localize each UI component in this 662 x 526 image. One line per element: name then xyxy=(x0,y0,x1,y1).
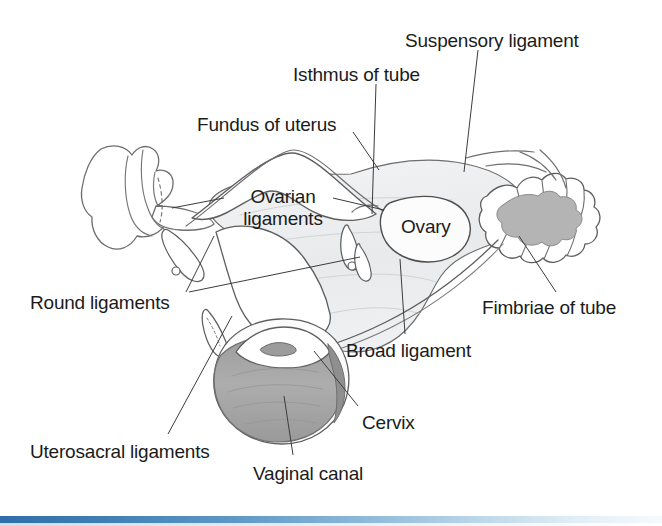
label-fimbriae-of-tube: Fimbriae of tube xyxy=(482,297,616,319)
label-suspensory-ligament: Suspensory ligament xyxy=(405,30,579,52)
diagram-page: Suspensory ligament Isthmus of tube Fund… xyxy=(0,0,662,526)
label-broad-ligament: Broad ligament xyxy=(346,340,471,362)
label-round-ligaments: Round ligaments xyxy=(30,292,170,314)
label-fundus-of-uterus: Fundus of uterus xyxy=(197,114,336,136)
label-vaginal-canal: Vaginal canal xyxy=(253,463,363,485)
label-ovary: Ovary xyxy=(401,216,451,238)
left-ovarian-ligament-tip xyxy=(172,267,180,275)
label-isthmus-of-tube: Isthmus of tube xyxy=(293,64,420,86)
bottom-accent-bar xyxy=(0,516,662,523)
left-ovarian-ligament xyxy=(162,229,204,281)
label-cervix: Cervix xyxy=(362,412,415,434)
suspensory-ligament-leader xyxy=(464,50,478,172)
label-uterosacral-ligaments: Uterosacral ligaments xyxy=(30,441,210,463)
label-ovarian-ligaments: Ovarian ligaments xyxy=(226,186,340,230)
fundus-of-uterus-leader xyxy=(353,132,379,170)
